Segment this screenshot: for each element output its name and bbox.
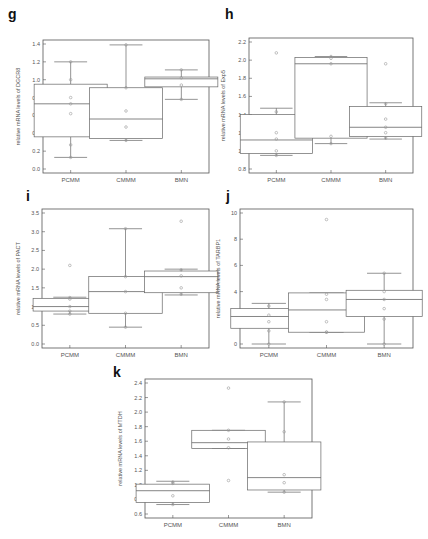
y-tick-label: 0.0 (32, 166, 40, 172)
box-bmn: BMN (346, 272, 422, 358)
x-category-label: CMMM (116, 177, 135, 183)
y-tick-label: 2.4 (134, 380, 142, 386)
box-pcmm: PCMM (136, 481, 209, 528)
y-axis-title: relative mRNA levels of DGCR8 (15, 68, 21, 146)
y-axis-title: relative mRNA levels of PACT (15, 242, 21, 315)
y-tick-label: 1.6 (238, 93, 246, 99)
x-category-label: PCMM (267, 177, 285, 183)
y-tick-label: 2.0 (134, 409, 142, 415)
y-tick-label: 1.8 (238, 75, 246, 81)
y-tick-label: 1.6 (134, 438, 142, 444)
box-bmn: BMN (247, 401, 320, 528)
box-cmmm: CMMM (89, 44, 162, 183)
chart-i: 0.00.51.01.52.02.53.03.5relative mRNA le… (15, 209, 218, 358)
data-point (384, 62, 387, 65)
x-category-label: BMN (277, 522, 290, 528)
y-axis-title: relative mRNA levels of MTDH (117, 411, 123, 485)
y-tick-label: 1.5 (31, 285, 39, 291)
chart-h: 0.81.01.21.41.61.82.02.2relative mRNA le… (220, 38, 422, 183)
box-cmmm: CMMM (288, 218, 364, 358)
x-category-label: PCMM (61, 352, 79, 358)
y-tick-label: 1.8 (134, 424, 142, 430)
box-plot-figure: 0.00.20.40.60.81.01.21.4relative mRNA le… (0, 0, 428, 539)
y-tick-label: 1.2 (134, 467, 142, 473)
y-tick-label: 1.2 (32, 59, 40, 65)
x-category-label: CMMM (317, 352, 336, 358)
y-tick-label: 10 (231, 210, 237, 216)
y-tick-label: 0 (234, 341, 237, 347)
y-tick-label: 0.8 (238, 166, 246, 172)
y-tick-label: 0.5 (31, 322, 39, 328)
y-tick-label: 0.0 (31, 341, 39, 347)
data-point (227, 479, 230, 482)
data-point (180, 220, 183, 223)
x-category-label: BMN (377, 352, 390, 358)
y-tick-label: 3.5 (31, 210, 39, 216)
y-axis-title: relative mRNA levels of Exp5 (220, 70, 226, 141)
data-point (69, 264, 72, 267)
y-tick-label: 8 (234, 236, 237, 242)
box-bmn: BMN (144, 220, 217, 358)
data-point (325, 218, 328, 221)
y-tick-label: 1.4 (32, 41, 40, 47)
y-axis-title: relative mRNA levels of TARBP1 (215, 239, 221, 318)
data-point (275, 52, 278, 55)
x-category-label: CMMM (219, 522, 238, 528)
data-point (227, 387, 230, 390)
chart-j: 0246810relative mRNA levels of TARBP1PCM… (215, 209, 422, 358)
x-category-label: BMN (174, 352, 187, 358)
y-tick-label: 0.6 (134, 511, 142, 517)
x-category-label: BMN (379, 177, 392, 183)
y-tick-label: 1.4 (134, 453, 142, 459)
y-tick-label: 1.0 (32, 77, 40, 83)
x-category-label: PCMM (61, 177, 79, 183)
x-category-label: PCMM (164, 522, 182, 528)
x-category-label: BMN (175, 177, 188, 183)
x-category-label: CMMM (116, 352, 135, 358)
y-tick-label: 2.2 (134, 395, 142, 401)
x-category-label: PCMM (260, 352, 278, 358)
y-tick-label: 2.2 (238, 39, 246, 45)
y-tick-label: 4 (234, 289, 237, 295)
y-tick-label: 6 (234, 262, 237, 268)
y-tick-label: 3.0 (31, 229, 39, 235)
y-tick-label: 2.0 (31, 266, 39, 272)
chart-g: 0.00.20.40.60.81.01.21.4relative mRNA le… (15, 40, 218, 183)
chart-k: 0.60.81.01.21.41.61.82.02.22.4relative m… (117, 379, 321, 528)
y-tick-label: 0.2 (32, 148, 40, 154)
x-category-label: CMMM (321, 177, 340, 183)
y-tick-label: 2.5 (31, 247, 39, 253)
y-tick-label: 2.0 (238, 57, 246, 63)
